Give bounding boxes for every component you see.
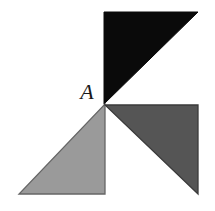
geometry-diagram: A: [0, 0, 215, 211]
vertex-label-a: A: [78, 79, 94, 104]
figure-canvas: A: [0, 0, 215, 211]
